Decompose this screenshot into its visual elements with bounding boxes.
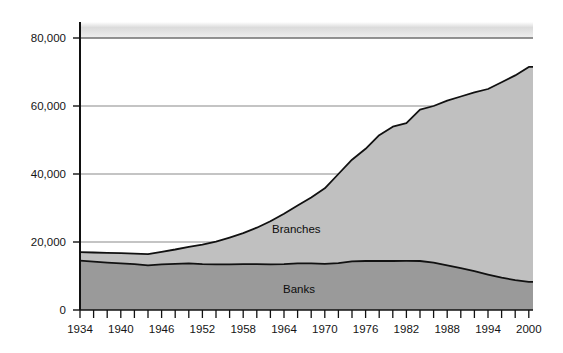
x-label-1946: 1946 bbox=[149, 323, 175, 335]
y-label-80000: 80,000 bbox=[31, 32, 66, 44]
y-label-40000: 40,000 bbox=[31, 168, 66, 180]
y-label-0: 0 bbox=[60, 304, 66, 316]
x-label-1982: 1982 bbox=[394, 323, 420, 335]
scan-artifact-band bbox=[80, 22, 533, 38]
x-label-1934: 1934 bbox=[67, 323, 93, 335]
x-label-1952: 1952 bbox=[190, 323, 216, 335]
y-label-60000: 60,000 bbox=[31, 100, 66, 112]
x-label-1964: 1964 bbox=[271, 323, 297, 335]
x-label-1970: 1970 bbox=[312, 323, 338, 335]
area-chart: 80,000 60,000 40,000 20,000 0 bbox=[0, 0, 563, 353]
x-label-2000: 2000 bbox=[516, 323, 542, 335]
chart-container: 80,000 60,000 40,000 20,000 0 bbox=[0, 0, 563, 353]
y-label-20000: 20,000 bbox=[31, 236, 66, 248]
series-label-branches: Branches bbox=[272, 223, 321, 235]
x-label-1994: 1994 bbox=[475, 323, 501, 335]
x-label-1976: 1976 bbox=[353, 323, 379, 335]
x-label-1940: 1940 bbox=[108, 323, 134, 335]
series-label-banks: Banks bbox=[283, 283, 315, 295]
x-label-1988: 1988 bbox=[434, 323, 460, 335]
x-label-1958: 1958 bbox=[230, 323, 256, 335]
